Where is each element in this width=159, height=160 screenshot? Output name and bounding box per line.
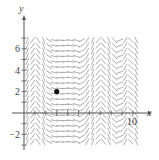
slope-segment bbox=[112, 86, 117, 90]
slope-segment bbox=[124, 59, 127, 65]
slope-segment bbox=[42, 53, 44, 59]
slope-segment bbox=[79, 71, 85, 74]
slope-segment bbox=[42, 69, 44, 75]
slope-segment bbox=[108, 128, 111, 134]
slope-segment bbox=[135, 85, 138, 91]
slope-segment bbox=[36, 118, 40, 123]
slope-segment bbox=[79, 39, 85, 42]
slope-segment bbox=[108, 91, 111, 97]
slope-segment bbox=[42, 43, 44, 49]
slope-segment bbox=[101, 107, 105, 112]
slope-segment bbox=[46, 76, 52, 79]
slope-segment bbox=[86, 43, 89, 49]
slope-segment bbox=[112, 75, 117, 79]
slope-segment bbox=[46, 103, 52, 106]
slope-segment bbox=[135, 80, 138, 86]
slope-segment bbox=[117, 60, 123, 62]
slope-segment bbox=[86, 37, 89, 43]
slope-segment bbox=[31, 64, 35, 69]
slope-segment bbox=[79, 87, 85, 90]
slope-field-segments bbox=[26, 37, 138, 145]
slope-segment bbox=[46, 65, 52, 68]
slope-segment bbox=[31, 43, 35, 48]
slope-segment bbox=[96, 123, 100, 128]
slope-segment bbox=[108, 53, 111, 59]
slope-segment bbox=[101, 75, 105, 80]
y-axis-arrow-icon bbox=[22, 15, 26, 20]
slope-segment bbox=[91, 96, 93, 102]
slope-segment bbox=[117, 66, 123, 68]
slope-segment bbox=[96, 97, 100, 102]
slope-segment bbox=[117, 39, 123, 41]
slope-segment bbox=[79, 108, 85, 111]
slope-segment bbox=[79, 135, 85, 138]
slope-segment bbox=[79, 44, 85, 47]
slope-segment bbox=[46, 114, 52, 117]
slope-segment bbox=[112, 59, 117, 63]
slope-segment bbox=[101, 49, 105, 54]
slope-segment bbox=[26, 64, 28, 70]
slope-segment bbox=[135, 102, 138, 108]
slope-segment bbox=[101, 65, 105, 70]
slope-segment bbox=[96, 75, 100, 80]
slope-segment bbox=[108, 43, 111, 49]
slope-segment bbox=[135, 128, 138, 134]
slope-segment bbox=[112, 124, 117, 128]
slope-segment bbox=[79, 81, 85, 84]
slope-segment bbox=[31, 59, 35, 64]
y-axis-label: y bbox=[18, 3, 24, 14]
slope-segment bbox=[79, 60, 85, 63]
slope-segment bbox=[91, 59, 93, 65]
slope-segment bbox=[101, 139, 105, 144]
slope-segment bbox=[26, 139, 28, 145]
slope-segment bbox=[108, 85, 111, 91]
slope-segment bbox=[46, 140, 52, 143]
slope-segment bbox=[112, 134, 117, 138]
slope-segment bbox=[91, 80, 93, 86]
slope-segment bbox=[42, 128, 44, 134]
slope-segment bbox=[79, 76, 85, 79]
slope-segment bbox=[36, 107, 40, 112]
slope-segment bbox=[42, 59, 44, 65]
slope-segment bbox=[101, 91, 105, 96]
slope-segment bbox=[31, 86, 35, 91]
slope-segment bbox=[36, 59, 40, 64]
slope-segment bbox=[42, 123, 44, 129]
slope-segment bbox=[124, 54, 127, 60]
slope-segment bbox=[129, 43, 134, 47]
slope-segment bbox=[79, 55, 85, 58]
slope-segment bbox=[36, 129, 40, 134]
slope-segment bbox=[129, 129, 134, 133]
slope-segment bbox=[86, 102, 89, 108]
slope-segment bbox=[117, 125, 123, 127]
slope-segment bbox=[108, 48, 111, 54]
slope-segment bbox=[135, 96, 138, 102]
slope-segment bbox=[36, 43, 40, 48]
slope-segment bbox=[86, 48, 89, 54]
slope-segment bbox=[124, 43, 127, 49]
slope-segment bbox=[91, 75, 93, 81]
slope-segment bbox=[129, 54, 134, 58]
slope-segment bbox=[36, 91, 40, 96]
slope-segment bbox=[101, 38, 105, 43]
slope-segment bbox=[79, 49, 85, 52]
slope-segment bbox=[79, 92, 85, 95]
slope-segment bbox=[31, 80, 35, 85]
slope-segment bbox=[31, 75, 35, 80]
slope-segment bbox=[112, 38, 117, 42]
slope-segment bbox=[46, 44, 52, 47]
slope-segment bbox=[31, 134, 35, 139]
slope-segment bbox=[31, 107, 35, 112]
slope-segment bbox=[124, 96, 127, 102]
slope-segment bbox=[91, 139, 93, 145]
slope-segment bbox=[108, 69, 111, 75]
slope-segment bbox=[36, 54, 40, 59]
slope-segment bbox=[101, 118, 105, 123]
slope-segment bbox=[112, 54, 117, 58]
slope-segment bbox=[112, 49, 117, 53]
slope-segment bbox=[36, 134, 40, 139]
slope-segment bbox=[91, 69, 93, 75]
slope-segment bbox=[117, 130, 123, 132]
slope-segment bbox=[108, 101, 111, 107]
slope-segment bbox=[129, 70, 134, 74]
